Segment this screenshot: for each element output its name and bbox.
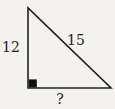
hypotenuse-label: 15 <box>67 32 85 48</box>
right-angle-marker <box>29 79 37 87</box>
triangle-outline <box>28 8 111 88</box>
base-unknown-label: ? <box>56 91 64 107</box>
left-side-label: 12 <box>2 39 20 55</box>
geometry-figure: 12 15 ? <box>0 0 115 109</box>
right-triangle-diagram: 12 15 ? <box>0 0 115 109</box>
